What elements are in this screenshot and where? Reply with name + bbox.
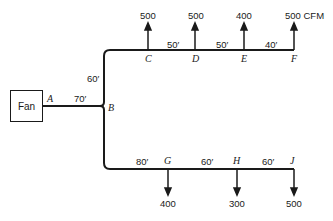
length-b-up: 60′ [87, 74, 99, 84]
node-e: E [241, 54, 247, 64]
node-a: A [47, 94, 53, 104]
node-d: D [192, 54, 199, 64]
node-c: C [145, 54, 152, 64]
length-hj: 60′ [262, 157, 274, 167]
flow-d: 500 [188, 11, 204, 21]
length-gh: 60′ [201, 157, 213, 167]
length-ef: 40′ [265, 40, 277, 50]
node-h: H [233, 156, 240, 166]
flow-h: 300 [229, 199, 245, 209]
flow-c: 500 [140, 11, 156, 21]
length-de: 50′ [216, 40, 228, 50]
node-g: G [164, 156, 171, 166]
fan-label: Fan [18, 101, 35, 112]
flow-e: 400 [236, 11, 252, 21]
fan-box: Fan [10, 90, 43, 122]
flow-g: 400 [160, 199, 176, 209]
node-f: F [291, 54, 297, 64]
node-b: B [108, 103, 114, 113]
length-b-g: 80′ [136, 157, 148, 167]
duct-lines [0, 0, 333, 221]
node-j: J [290, 156, 294, 166]
flow-f: 500 CFM [285, 11, 324, 21]
length-ab: 70′ [74, 94, 86, 104]
flow-j: 500 [286, 199, 302, 209]
length-cd: 50′ [167, 40, 179, 50]
